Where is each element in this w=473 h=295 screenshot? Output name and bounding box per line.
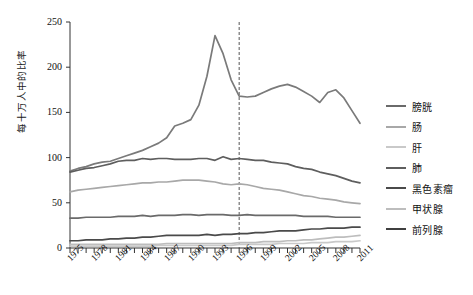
series-line: [70, 215, 360, 219]
legend-item[interactable]: 膀胱: [386, 96, 472, 117]
chart-root: 每十万人中的比率 250200150100500 197519781981198…: [0, 0, 473, 295]
legend-item[interactable]: 肝: [386, 137, 472, 158]
legend-swatch-icon: [386, 228, 406, 230]
plot-area: 每十万人中的比率 250200150100500 197519781981198…: [0, 0, 473, 295]
legend-item[interactable]: 肠: [386, 117, 472, 138]
legend-swatch-icon: [386, 146, 406, 148]
legend-swatch-icon: [386, 126, 406, 128]
y-tick-label: 50: [28, 197, 62, 208]
legend-swatch-icon: [386, 208, 406, 210]
y-axis-title: 每十万人中的比率: [14, 26, 28, 156]
legend-item-label: 黑色素瘤: [412, 181, 453, 196]
y-tick-label: 100: [28, 152, 62, 163]
y-tick-label: 250: [28, 16, 62, 27]
legend-item-label: 肺: [412, 160, 422, 175]
legend-item[interactable]: 肺: [386, 158, 472, 179]
y-tick-label: 150: [28, 106, 62, 117]
legend-item-label: 肝: [412, 140, 422, 155]
series-line: [70, 180, 360, 204]
chart-legend: 膀胱肠肝肺黑色素瘤甲状腺前列腺: [386, 96, 472, 240]
legend-item[interactable]: 前列腺: [386, 219, 472, 240]
legend-item-label: 肠: [412, 119, 422, 134]
legend-swatch-icon: [386, 105, 406, 107]
legend-swatch-icon: [386, 187, 406, 189]
legend-item-label: 甲状腺: [412, 201, 443, 216]
legend-item-label: 前列腺: [412, 222, 443, 237]
y-tick-label: 200: [28, 61, 62, 72]
series-line: [70, 36, 360, 172]
legend-item[interactable]: 甲状腺: [386, 199, 472, 220]
legend-item-label: 膀胱: [412, 99, 433, 114]
legend-swatch-icon: [386, 167, 406, 169]
y-tick-label: 0: [28, 242, 62, 253]
legend-item[interactable]: 黑色素瘤: [386, 178, 472, 199]
